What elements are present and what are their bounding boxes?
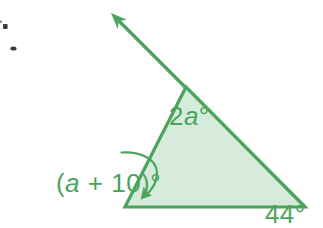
label-exterior-coefficient: 2: [169, 101, 184, 131]
label-left-open-paren: (: [56, 168, 65, 198]
scan-artifact-speck: [0, 21, 2, 24]
label-left-rest: + 10): [80, 168, 150, 198]
degree-symbol: °: [295, 199, 306, 228]
label-bottom-left-angle: (a + 10)°: [25, 144, 161, 222]
degree-symbol: °: [199, 101, 210, 131]
scan-artifact-dash: [10, 47, 16, 51]
label-exterior-variable: a: [184, 101, 199, 131]
figure-canvas: 2a° (a + 10)° 44°: [0, 0, 323, 228]
degree-symbol: °: [150, 168, 161, 198]
scan-artifact-dot: [3, 24, 8, 29]
label-bottom-right-angle: 44°: [234, 175, 306, 228]
label-right-value: 44: [265, 199, 295, 228]
label-left-variable: a: [65, 168, 80, 198]
